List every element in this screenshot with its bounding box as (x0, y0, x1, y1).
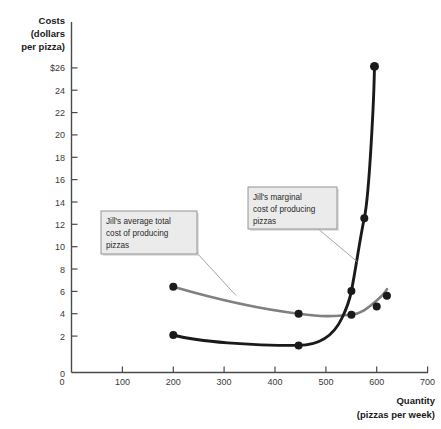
x-tick-label-100: 100 (115, 377, 130, 387)
x-tick-label-700: 700 (420, 377, 435, 387)
y-tick-label-2: 2 (60, 332, 65, 342)
mc-point-550 (347, 287, 355, 295)
y-axis-title-line3: per pizza) (21, 41, 65, 52)
y-tick-label-22: 22 (55, 108, 65, 118)
y-tick-label-4: 4 (60, 309, 65, 319)
x-tick-label-200: 200 (166, 377, 181, 387)
atc-callout-line2: cost of producing (106, 229, 169, 238)
x-axis-title-line2: (pizzas per week) (357, 409, 435, 420)
mc-callout-line2: cost of producing (253, 205, 316, 214)
x-axis-title-line1: Quantity (396, 395, 435, 406)
mc-point-600 (360, 214, 368, 222)
atc-point-600 (373, 303, 381, 311)
atc-point-450 (295, 310, 303, 318)
y-tick-label-10: 10 (55, 242, 65, 252)
y-tick-label-26: $26 (50, 63, 65, 73)
mc-callout-line1: Jill's marginal (253, 193, 302, 202)
mc-callout[interactable]: Jill's marginal cost of producing pizzas (248, 187, 339, 231)
x-tick-label-500: 500 (318, 377, 333, 387)
y-tick-label-24: 24 (55, 86, 65, 96)
atc-callout[interactable]: Jill's average total cost of producing p… (101, 211, 199, 256)
y-axis-title-line1: Costs (39, 15, 65, 26)
y-tick-label-14: 14 (55, 198, 65, 208)
x-tick-label-400: 400 (267, 377, 282, 387)
y-tick-label-12: 12 (55, 220, 65, 230)
y-tick-label-6: 6 (60, 287, 65, 297)
mc-point-450 (295, 341, 303, 349)
cost-curves-chart: $26 24 22 20 18 16 14 12 10 8 6 4 2 0 Co… (0, 0, 441, 429)
x-tick-label-300: 300 (217, 377, 232, 387)
y-tick-label-18: 18 (55, 153, 65, 163)
y-tick-label-20: 20 (55, 130, 65, 140)
mc-point-620 (370, 62, 379, 71)
atc-point-620 (383, 292, 391, 300)
y-tick-label-16: 16 (55, 175, 65, 185)
x-tick-label-0: 0 (59, 377, 64, 387)
atc-callout-line3: pizzas (106, 241, 129, 250)
x-tick-label-600: 600 (369, 377, 384, 387)
atc-point-550 (347, 311, 355, 319)
y-tick-label-8: 8 (60, 265, 65, 275)
mc-point-200 (169, 331, 177, 339)
y-axis-title-line2: (dollars (31, 28, 65, 39)
mc-callout-line3: pizzas (253, 217, 276, 226)
atc-point-200 (169, 283, 177, 291)
chart-page: $26 24 22 20 18 16 14 12 10 8 6 4 2 0 Co… (0, 0, 441, 429)
atc-callout-line1: Jill's average total (106, 217, 171, 226)
